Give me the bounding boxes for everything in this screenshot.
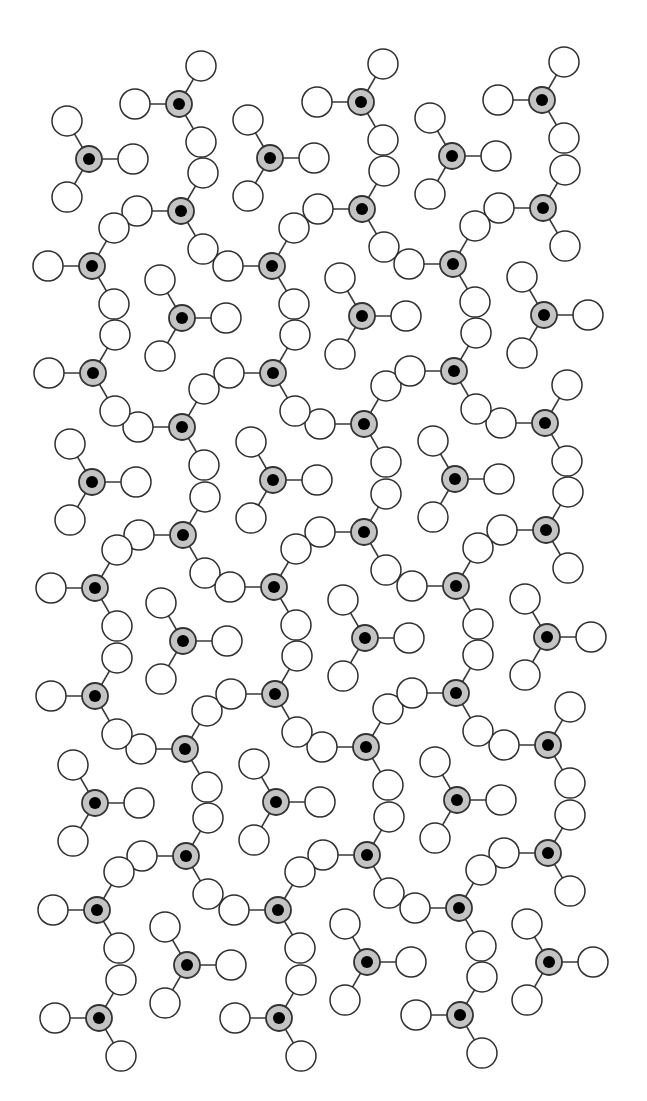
central-atom-core bbox=[264, 152, 276, 164]
ligand-atom bbox=[102, 719, 132, 749]
ligand-atom bbox=[467, 962, 497, 992]
ligand-atom bbox=[118, 144, 148, 174]
central-atom-chain-unit bbox=[79, 253, 105, 279]
central-atom-core bbox=[91, 904, 103, 916]
ligand-atom bbox=[33, 251, 63, 281]
ligand-atom bbox=[461, 394, 491, 424]
ligand-atom bbox=[146, 588, 176, 618]
ligand-atom bbox=[400, 893, 430, 923]
central-atom-chain-unit bbox=[170, 522, 196, 548]
ligand-atom bbox=[36, 573, 66, 603]
ligand-atom bbox=[280, 396, 310, 426]
ligand-atom bbox=[186, 51, 216, 81]
central-atom-core bbox=[89, 582, 101, 594]
ligand-atom bbox=[576, 622, 606, 652]
ligand-atom bbox=[285, 933, 315, 963]
ligand-atom bbox=[401, 1000, 431, 1030]
central-atom-Y-unit bbox=[174, 952, 200, 978]
ligand-atom bbox=[555, 768, 585, 798]
central-atom-chain-unit bbox=[440, 251, 466, 277]
central-atom-chain-unit bbox=[532, 410, 558, 436]
central-atom-core bbox=[361, 956, 373, 968]
ligand-atom bbox=[188, 158, 218, 188]
central-atom-core bbox=[360, 741, 372, 753]
central-atom-core bbox=[83, 153, 95, 165]
ligand-atom bbox=[374, 878, 404, 908]
central-atom-core bbox=[179, 743, 191, 755]
central-atom-chain-unit bbox=[169, 414, 195, 440]
ligand-atom bbox=[483, 85, 513, 115]
central-atom-core bbox=[449, 473, 461, 485]
ligand-atom bbox=[286, 1041, 316, 1071]
central-atom-chain-unit bbox=[443, 680, 469, 706]
ligand-atom bbox=[555, 800, 585, 830]
central-atom-chain-unit bbox=[168, 198, 194, 224]
ligand-atom bbox=[285, 857, 315, 887]
central-atom-chain-unit bbox=[535, 732, 561, 758]
central-atom-chain-unit bbox=[446, 895, 472, 921]
ligand-atom bbox=[106, 965, 136, 995]
ligand-atom bbox=[236, 427, 266, 457]
central-atom-core bbox=[543, 956, 555, 968]
central-atom-Y-unit bbox=[354, 949, 380, 975]
central-atom-core bbox=[542, 739, 554, 751]
central-atom-core bbox=[267, 367, 279, 379]
ligand-atom bbox=[282, 641, 312, 671]
ligand-atom bbox=[466, 931, 496, 961]
ligand-atom bbox=[55, 429, 85, 459]
ligand-atom bbox=[99, 289, 129, 319]
central-atom-core bbox=[269, 688, 281, 700]
ligand-atom bbox=[281, 610, 311, 640]
central-atom-core bbox=[446, 150, 458, 162]
ligand-atom bbox=[100, 320, 130, 350]
ligand-atom bbox=[55, 505, 85, 535]
ligand-atom bbox=[369, 156, 399, 186]
central-atom-Y-unit bbox=[169, 305, 195, 331]
central-atom-Y-unit bbox=[349, 303, 375, 329]
central-atom-chain-unit bbox=[443, 573, 469, 599]
ligand-atom bbox=[219, 895, 249, 925]
ligand-atom bbox=[415, 179, 445, 209]
central-atom-core bbox=[266, 260, 278, 272]
central-atom-core bbox=[538, 309, 550, 321]
central-atom-Y-unit bbox=[82, 790, 108, 816]
central-atom-chain-unit bbox=[351, 411, 377, 437]
ligand-atom bbox=[299, 143, 329, 173]
ligand-atom bbox=[507, 338, 537, 368]
central-atom-core bbox=[93, 1012, 105, 1024]
central-atom-core bbox=[87, 367, 99, 379]
ligand-atom bbox=[193, 879, 223, 909]
ligand-atom bbox=[280, 320, 310, 350]
central-atom-core bbox=[177, 635, 189, 647]
ligand-atom bbox=[216, 950, 246, 980]
central-atom-chain-unit bbox=[84, 897, 110, 923]
ligand-atom bbox=[102, 611, 132, 641]
central-atom-core bbox=[173, 98, 185, 110]
ligand-atom bbox=[481, 141, 511, 171]
ligand-atom bbox=[418, 426, 448, 456]
ligand-atom bbox=[552, 370, 582, 400]
ligand-atom bbox=[100, 396, 130, 426]
central-atom-chain-unit bbox=[260, 360, 286, 386]
central-atom-Y-unit bbox=[444, 787, 470, 813]
central-atom-chain-unit bbox=[447, 1002, 473, 1028]
central-atom-core bbox=[356, 310, 368, 322]
central-atom-core bbox=[454, 1009, 466, 1021]
central-atom-core bbox=[86, 476, 98, 488]
central-atom-core bbox=[181, 959, 193, 971]
central-atom-chain-unit bbox=[82, 575, 108, 601]
central-atom-core bbox=[541, 631, 553, 643]
central-atom-Y-unit bbox=[531, 302, 557, 328]
central-atom-Y-unit bbox=[442, 466, 468, 492]
ligand-atom bbox=[215, 572, 245, 602]
ligand-atom bbox=[510, 584, 540, 614]
ligand-atom bbox=[282, 717, 312, 747]
central-atom-chain-unit bbox=[262, 681, 288, 707]
ligand-atom bbox=[216, 679, 246, 709]
ligand-atom bbox=[302, 465, 332, 495]
crystal-packing-diagram bbox=[0, 0, 647, 1101]
ligand-atom bbox=[512, 909, 542, 939]
central-atom-Y-unit bbox=[76, 146, 102, 172]
ligand-atom bbox=[145, 341, 175, 371]
ligand-atom bbox=[279, 213, 309, 243]
